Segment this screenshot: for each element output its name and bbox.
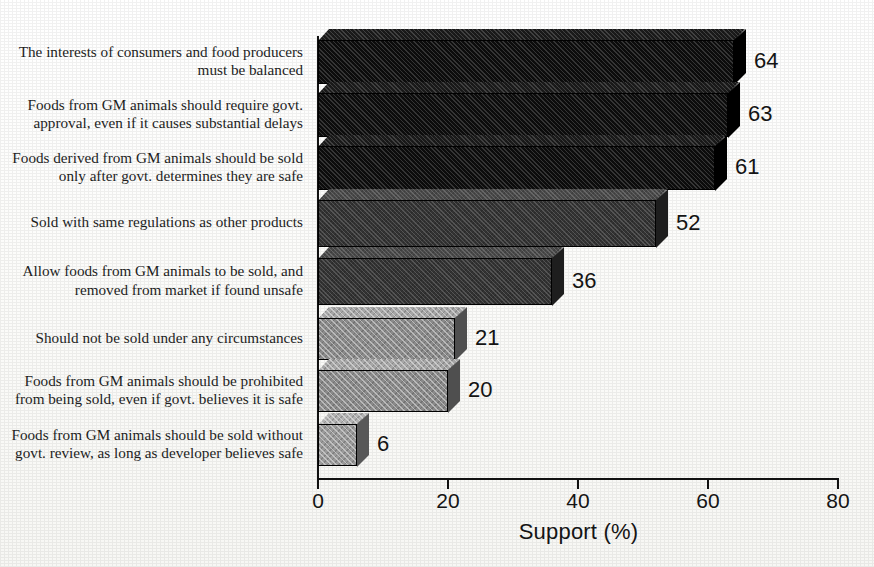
bar-category-label: The interests of consumers and food prod… (8, 43, 303, 80)
x-axis-title: Support (%) (318, 519, 839, 545)
bar-value-label: 6 (377, 431, 389, 457)
bar-category-label-line2: govt. review, as long as developer belie… (8, 444, 303, 463)
x-tick-label-20: 20 (436, 489, 459, 513)
bar-front-face (318, 146, 715, 190)
x-tick-label-60: 60 (696, 489, 719, 513)
bar-front-texture (319, 371, 447, 411)
bar-3d[interactable] (318, 189, 667, 247)
bar-value-label: 36 (572, 268, 596, 294)
bar-value-label: 20 (468, 377, 492, 403)
bar-front-texture (319, 41, 733, 83)
bar-category-label-line2: must be balanced (8, 61, 303, 80)
bar-front-face (318, 40, 734, 84)
bar-3d[interactable] (318, 135, 726, 190)
bar-front-face (318, 93, 728, 137)
bar-front-texture (319, 94, 727, 136)
x-tick-0 (317, 480, 319, 489)
bar-front-texture (319, 319, 454, 359)
x-tick-60 (707, 480, 709, 489)
bar-front-face (318, 424, 357, 466)
x-tick-label-80: 80 (826, 489, 849, 513)
bar-category-label-line2: approval, even if it causes substantial … (8, 114, 303, 133)
bar-category-label-line2: only after govt. determines they are saf… (8, 167, 303, 186)
x-tick-20 (447, 480, 449, 489)
bar-front-face (318, 200, 656, 247)
bar-category-label-line2: from being sold, even if govt. believes … (8, 390, 303, 409)
bar-category-label: Should not be sold under any circumstanc… (8, 329, 303, 348)
bar-3d[interactable] (318, 359, 459, 412)
bar-category-label-line1: Foods from GM animals should require gov… (8, 96, 303, 115)
bar-category-label: Foods derived from GM animals should be … (8, 149, 303, 186)
bar-category-label: Foods from GM animals should be prohibit… (8, 372, 303, 409)
bar-value-label: 63 (748, 101, 772, 127)
bar-chart: 020406080 The interests of consumers and… (0, 0, 874, 567)
x-tick-40 (577, 480, 579, 489)
bar-front-face (318, 258, 552, 305)
bar-3d[interactable] (318, 247, 563, 305)
bar-category-label-line1: The interests of consumers and food prod… (8, 43, 303, 62)
bar-category-label: Foods from GM animals should require gov… (8, 96, 303, 133)
bar-value-label: 61 (735, 154, 759, 180)
bar-value-label: 52 (676, 210, 700, 236)
bar-3d[interactable] (318, 82, 739, 137)
bar-category-label: Foods from GM animals should be sold wit… (8, 426, 303, 463)
bar-category-label: Sold with same regulations as other prod… (8, 213, 303, 232)
bar-value-label: 21 (475, 325, 499, 351)
bar-3d[interactable] (318, 413, 368, 466)
bar-3d[interactable] (318, 29, 745, 84)
bar-front-texture (319, 259, 551, 304)
x-tick-label-0: 0 (312, 489, 324, 513)
bar-front-face (318, 370, 448, 412)
bar-front-texture (319, 425, 356, 465)
x-tick-80 (837, 480, 839, 489)
x-tick-label-40: 40 (566, 489, 589, 513)
bar-category-label-line1: Allow foods from GM animals to be sold, … (8, 262, 303, 281)
bar-category-label-line1: Should not be sold under any circumstanc… (8, 329, 303, 348)
bar-front-face (318, 318, 455, 360)
bar-front-texture (319, 147, 714, 189)
bar-category-label-line2: removed from market if found unsafe (8, 281, 303, 300)
bar-category-label: Allow foods from GM animals to be sold, … (8, 262, 303, 299)
bar-value-label: 64 (754, 48, 778, 74)
bar-category-label-line1: Foods derived from GM animals should be … (8, 149, 303, 168)
bar-category-label-line1: Foods from GM animals should be prohibit… (8, 372, 303, 391)
bar-3d[interactable] (318, 307, 466, 360)
bar-category-label-line1: Sold with same regulations as other prod… (8, 213, 303, 232)
bar-front-texture (319, 201, 655, 246)
bar-category-label-line1: Foods from GM animals should be sold wit… (8, 426, 303, 445)
